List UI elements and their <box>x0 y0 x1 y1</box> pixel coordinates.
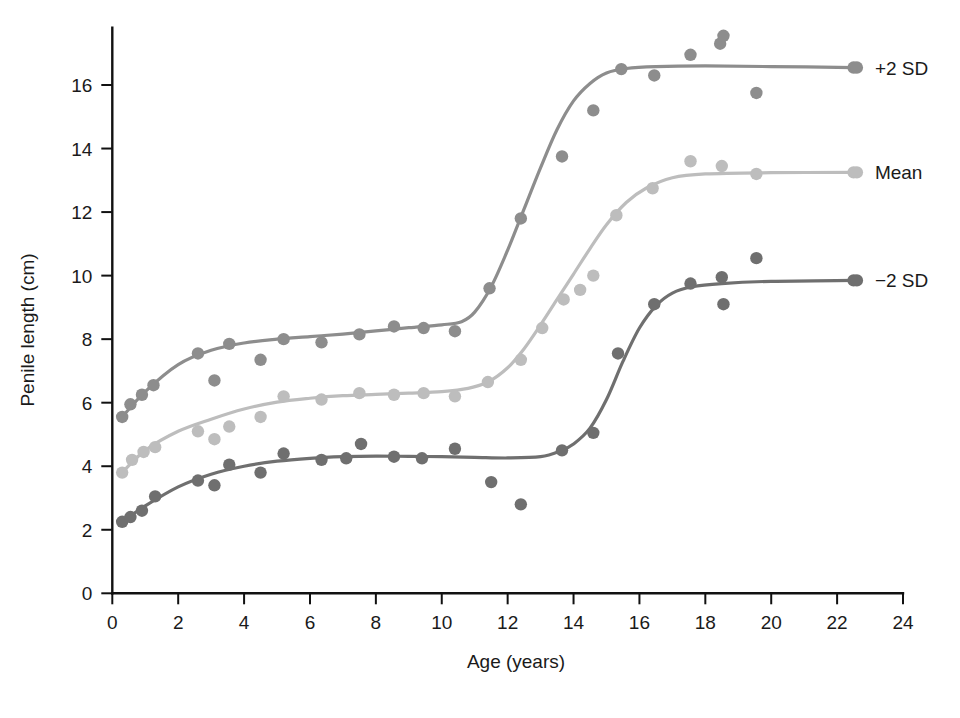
data-point <box>717 298 729 310</box>
data-point <box>254 466 266 478</box>
x-tick-label: 4 <box>239 612 250 633</box>
x-tick-label: 16 <box>629 612 650 633</box>
data-point <box>223 458 235 470</box>
data-point <box>116 411 128 423</box>
data-point <box>223 420 235 432</box>
y-tick-label: 12 <box>71 202 92 223</box>
data-point <box>355 438 367 450</box>
x-axis-ticks <box>112 593 903 604</box>
data-point <box>449 390 461 402</box>
y-axis-title: Penile length (cm) <box>17 253 38 406</box>
data-point <box>716 160 728 172</box>
data-point <box>315 454 327 466</box>
x-tick-label: 24 <box>892 612 914 633</box>
data-point <box>485 476 497 488</box>
data-point <box>648 298 660 310</box>
data-point <box>223 338 235 350</box>
data-point <box>149 441 161 453</box>
x-tick-label: 0 <box>107 612 118 633</box>
data-point <box>610 209 622 221</box>
data-point <box>482 376 494 388</box>
series-labels-group: +2 SDMean−2 SD <box>851 58 929 292</box>
series-end-marker <box>851 166 863 178</box>
data-point <box>124 398 136 410</box>
data-point <box>277 390 289 402</box>
x-tick-label: 10 <box>431 612 452 633</box>
x-tick-label: 20 <box>761 612 782 633</box>
y-tick-label: 4 <box>82 456 93 477</box>
growth-chart-svg: 0246810121416 024681012141618202224 +2 S… <box>0 0 960 718</box>
data-point <box>750 87 762 99</box>
data-point <box>116 466 128 478</box>
y-axis-ticks <box>101 85 112 593</box>
data-point <box>556 150 568 162</box>
data-point <box>684 49 696 61</box>
data-point <box>277 447 289 459</box>
data-point <box>557 293 569 305</box>
data-point <box>515 498 527 510</box>
x-axis-title: Age (years) <box>467 651 565 672</box>
data-point <box>515 212 527 224</box>
x-tick-label: 8 <box>371 612 382 633</box>
data-point <box>648 69 660 81</box>
data-point <box>192 425 204 437</box>
x-tick-label: 12 <box>497 612 518 633</box>
y-tick-label: 2 <box>82 520 93 541</box>
data-point <box>515 354 527 366</box>
data-point <box>315 336 327 348</box>
series-label-2sd: +2 SD <box>875 58 928 79</box>
data-point <box>192 474 204 486</box>
series-points-group <box>116 30 860 528</box>
data-point <box>449 443 461 455</box>
data-point <box>615 63 627 75</box>
data-point <box>315 393 327 405</box>
data-point <box>208 479 220 491</box>
series-label-mean: Mean <box>875 162 923 183</box>
data-point <box>254 411 266 423</box>
data-point <box>646 182 658 194</box>
data-point <box>388 450 400 462</box>
data-point <box>353 387 365 399</box>
data-point <box>750 168 762 180</box>
data-point <box>192 347 204 359</box>
data-point <box>147 379 159 391</box>
x-tick-label: 2 <box>173 612 184 633</box>
y-tick-label: 16 <box>71 75 92 96</box>
data-point <box>353 328 365 340</box>
data-point <box>149 490 161 502</box>
y-tick-label: 8 <box>82 329 93 350</box>
data-point <box>388 320 400 332</box>
series-end-marker <box>851 274 863 286</box>
y-axis-tick-labels: 0246810121416 <box>71 75 93 604</box>
data-point <box>556 444 568 456</box>
x-tick-label: 22 <box>827 612 848 633</box>
x-tick-label: 14 <box>563 612 585 633</box>
data-point <box>136 389 148 401</box>
data-point <box>417 322 429 334</box>
data-point <box>684 155 696 167</box>
data-point <box>208 433 220 445</box>
data-point <box>136 505 148 517</box>
axes-group: 0246810121416 024681012141618202224 <box>71 28 914 633</box>
series-end-marker <box>851 61 863 73</box>
data-point <box>587 104 599 116</box>
data-point <box>684 277 696 289</box>
data-point <box>417 387 429 399</box>
data-point <box>208 374 220 386</box>
data-point <box>388 389 400 401</box>
data-point <box>340 452 352 464</box>
data-point <box>277 333 289 345</box>
y-tick-label: 10 <box>71 266 92 287</box>
data-point <box>574 284 586 296</box>
x-axis-tick-labels: 024681012141618202224 <box>107 612 914 633</box>
x-tick-label: 18 <box>695 612 716 633</box>
chart-figure: 0246810121416 024681012141618202224 +2 S… <box>0 0 960 718</box>
series-label-2sd: −2 SD <box>875 270 928 291</box>
data-point <box>612 347 624 359</box>
series-curve-2sd <box>122 66 853 417</box>
data-point <box>124 511 136 523</box>
data-point <box>750 252 762 264</box>
data-point <box>717 30 729 42</box>
data-point <box>587 269 599 281</box>
y-tick-label: 14 <box>71 139 93 160</box>
